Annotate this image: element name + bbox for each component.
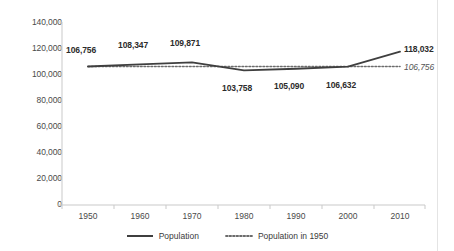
data-label-2010: 118,032 (404, 44, 434, 54)
data-label-1960: 108,347 (118, 40, 148, 50)
plot-area (0, 0, 454, 251)
chart-legend: Population Population in 1950 (0, 231, 454, 241)
data-label-1990: 105,090 (274, 81, 304, 91)
legend-dotted-line-icon (225, 232, 253, 240)
series-population (88, 52, 400, 71)
data-label-1980: 103,758 (222, 83, 252, 93)
legend-item-population[interactable]: Population (126, 231, 199, 241)
data-label-1950: 106,756 (66, 45, 96, 55)
data-label-reference-1950: 106,756 (404, 62, 434, 72)
legend-label-population: Population (159, 231, 199, 241)
data-label-2000: 106,632 (326, 80, 356, 90)
legend-solid-line-icon (126, 232, 154, 240)
data-label-1970: 109,871 (170, 38, 200, 48)
legend-label-population-in-1950: Population in 1950 (258, 231, 328, 241)
y-axis-ticks (58, 22, 62, 205)
legend-item-population-in-1950[interactable]: Population in 1950 (225, 231, 328, 241)
x-axis-ticks (62, 205, 425, 209)
population-line-chart: 140,000 120,000 100,000 80,000 60,000 40… (0, 0, 454, 251)
